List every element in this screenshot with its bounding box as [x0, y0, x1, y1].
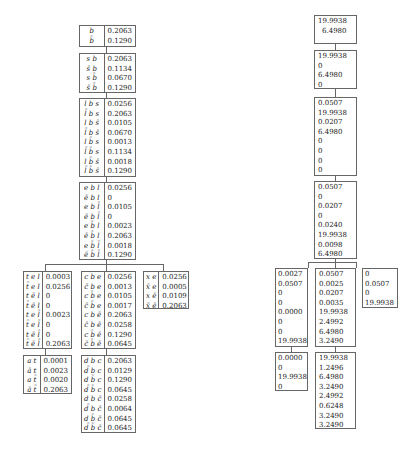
- row-value: 0.0018: [108, 242, 133, 252]
- cpt-node-l5: t e l t̄ e l t ē l t̄ ē l t e l̄ t̄ e l̄…: [23, 271, 72, 349]
- row-label: t̄ ē l̄: [26, 340, 40, 350]
- node-value: 0.0207: [318, 202, 353, 212]
- edge-to-l5: [45, 264, 46, 271]
- row-label: ā t̄: [26, 386, 38, 396]
- row-value: 0.2063: [162, 302, 187, 312]
- row-label: c̄ b ē: [84, 321, 102, 331]
- row-label: x ē: [146, 292, 156, 302]
- row-label: c̄ b e: [84, 283, 102, 293]
- row-label: l b̄ s̄: [82, 158, 102, 168]
- row-value: 0.1290: [108, 251, 133, 261]
- node-value: 19.9938: [318, 52, 353, 62]
- edge-l4-branch: [106, 259, 107, 271]
- row-value: 0.0003: [46, 273, 71, 283]
- row-value: 0.0670: [108, 129, 133, 139]
- row-label: d̄ b c̄: [84, 405, 102, 415]
- row-label: l̄ b s̄: [82, 129, 102, 139]
- potential-node-r9: 19.9938 1.2496 6.4980 3.2490 2.4992 0.62…: [315, 352, 356, 429]
- row-label: x e: [146, 273, 156, 283]
- node-value: 0.0025: [319, 280, 352, 290]
- row-value: 0.0018: [108, 158, 133, 168]
- row-value: 0.2063: [108, 55, 133, 65]
- edge-to-r7: [356, 262, 357, 268]
- cpt-node-l8: a t ā t a t̄ ā t̄ 0.0001 0.0023 0.0020 0…: [23, 355, 72, 394]
- row-label: a t: [26, 357, 38, 367]
- node-value: 0: [318, 147, 353, 157]
- row-value: 0.0020: [44, 376, 69, 386]
- row-value: 0.0023: [108, 222, 133, 232]
- row-value: 0.2063: [108, 27, 133, 37]
- row-value: 0.2063: [108, 232, 133, 242]
- row-value: 0.0105: [108, 119, 133, 129]
- node-value: 0: [278, 299, 305, 309]
- row-value: 0.0017: [108, 302, 133, 312]
- row-value: 0.0645: [108, 386, 133, 396]
- row-value: 0.1290: [108, 84, 133, 94]
- row-label: e b̄ l̄: [82, 242, 102, 252]
- node-value: 0.0035: [319, 299, 352, 309]
- potential-node-r6: 0.0507 0.0025 0.0207 0.0035 19.9938 2.49…: [315, 268, 356, 347]
- node-value: 0.0507: [278, 280, 305, 290]
- row-value: 0.0256: [108, 184, 133, 194]
- row-value: 0: [108, 194, 133, 204]
- row-label: s b̄: [82, 74, 102, 84]
- potential-node-r7: 0 0.0507 0 19.9938: [362, 268, 398, 308]
- row-label: d b c̄: [84, 395, 102, 405]
- node-value: 0: [318, 81, 353, 91]
- row-label: d b̄ c: [84, 376, 102, 386]
- row-label: l b̄ s: [82, 138, 102, 148]
- row-value: 0.1290: [108, 331, 133, 341]
- node-value: 3.2490: [319, 337, 352, 347]
- row-value: 0.0645: [108, 424, 133, 434]
- node-value: 0: [365, 270, 395, 280]
- row-label: b: [82, 27, 102, 37]
- potential-node-r2: 19.9938 0 6.4980 0: [314, 50, 357, 89]
- row-value: 0.1290: [108, 37, 133, 47]
- row-label: c̄ b̄ ē: [84, 340, 102, 350]
- node-value: 6.4980: [318, 71, 353, 81]
- cpt-node-l3: l b s l̄ b s l b s̄ l̄ b s̄ l b̄ s l̄ b̄…: [79, 98, 136, 177]
- row-value: 0.1134: [108, 65, 133, 75]
- row-label: c b̄ ē: [84, 331, 102, 341]
- row-label: ā t: [26, 367, 38, 377]
- row-label: c̄ b̄ e: [84, 302, 102, 312]
- row-value: 0.0001: [44, 357, 69, 367]
- node-value: 19.9938: [365, 299, 395, 309]
- node-value: 0: [318, 137, 353, 147]
- row-value: 0.0105: [108, 203, 133, 213]
- row-label: d̄ b̄ c̄: [84, 424, 102, 434]
- node-value: 0: [318, 166, 353, 176]
- row-value: 0.0670: [108, 74, 133, 84]
- node-value: 0.0507: [318, 99, 353, 109]
- row-value: 0.1290: [108, 376, 133, 386]
- row-label: d b c: [84, 357, 102, 367]
- row-label: t̄ e l̄: [26, 321, 40, 331]
- row-value: 0.0256: [162, 273, 187, 283]
- row-value: 0.0258: [108, 395, 133, 405]
- node-value: 0.0240: [318, 221, 353, 231]
- row-value: 0.0064: [108, 405, 133, 415]
- row-label: d b̄ c̄: [84, 415, 102, 425]
- node-value: 0: [278, 289, 305, 299]
- row-label: t e l: [26, 273, 40, 283]
- node-value: 0.0098: [318, 241, 353, 251]
- node-value: 0.0027: [278, 270, 305, 280]
- node-value: 0.0207: [318, 118, 353, 128]
- row-label: l b s: [82, 100, 102, 110]
- row-value: 0.0013: [108, 138, 133, 148]
- row-value: 0.0023: [44, 367, 69, 377]
- node-value: 6.4980: [318, 128, 353, 138]
- row-label: t ē l: [26, 292, 40, 302]
- edge-to-l7: [163, 264, 164, 271]
- row-label: d̄ b̄ c: [84, 386, 102, 396]
- row-label: x̄ ē: [146, 302, 156, 312]
- row-label: ē b̄ l̄: [82, 251, 102, 261]
- node-value: 1.2496: [319, 364, 352, 374]
- node-value: 0: [278, 328, 305, 338]
- row-value: 0: [46, 321, 71, 331]
- node-value: 19.9938: [318, 17, 353, 27]
- node-value: 6.4980: [318, 250, 353, 260]
- edge-l1-l2: [106, 46, 107, 53]
- cpt-node-l2: s b s̄ b s b̄ s̄ b̄ 0.2063 0.1134 0.0670…: [79, 53, 136, 93]
- row-value: 0.2063: [44, 386, 69, 396]
